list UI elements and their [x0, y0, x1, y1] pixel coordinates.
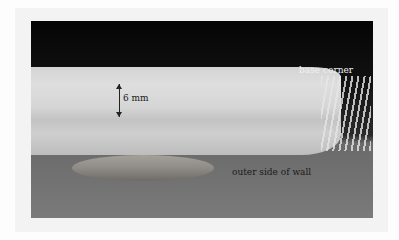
- wall-specimen: [31, 67, 341, 155]
- specimen-photo: 6 mm base corner outer side of wall: [31, 21, 373, 218]
- thickness-label: 6 mm: [123, 93, 149, 103]
- outer-side-label: outer side of wall: [232, 167, 311, 177]
- frayed-fibers: [321, 76, 371, 151]
- coin-scale-reference: [72, 155, 214, 181]
- base-corner-label: base corner: [299, 65, 353, 75]
- thickness-arrow-icon: [119, 84, 120, 117]
